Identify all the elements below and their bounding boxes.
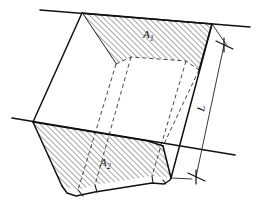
floor-left-toe-tick [95,185,97,192]
label-length: L [194,104,207,113]
floor-right-toe-tick [152,176,153,183]
excavation-diagram-figure: A 1 A 2 L [0,0,258,208]
near-area-label-subscript: 1 [150,34,154,43]
far-area-label-subscript: 2 [107,162,111,171]
length-witness-line-bottom [171,178,192,179]
length-label-base: L [194,104,207,113]
near-area-label-base: A [142,28,150,40]
far-area-label-base: A [99,156,107,168]
right-floor-hidden-edge [163,70,199,146]
length-witness-line-top [212,24,228,47]
diagram-canvas: A 1 A 2 L [0,0,258,208]
